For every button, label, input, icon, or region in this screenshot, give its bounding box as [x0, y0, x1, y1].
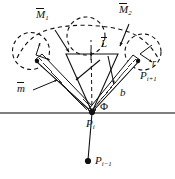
label-mass-left-text: m: [17, 83, 25, 94]
label-node-right-text: P: [140, 69, 147, 81]
figure-canvas: M1 M2 L m r b Φ Pi+1 Pi Pi−1: [0, 0, 175, 179]
label-radius-right-text: r: [152, 57, 156, 68]
hatched-band-left: [35, 54, 96, 112]
label-length-center: L: [101, 38, 107, 49]
dashed-connecting-arc: [17, 25, 158, 58]
label-moment-right-text: M: [119, 4, 128, 15]
label-angle-phi-text: Φ: [100, 100, 108, 112]
label-mass-left: m: [17, 83, 25, 94]
label-node-below-sub: i−1: [102, 160, 112, 167]
mass-leader-line: [33, 80, 57, 90]
label-node-vertex-sub: i: [93, 123, 95, 130]
label-angle-phi: Φ: [100, 101, 108, 112]
label-width-right: b: [120, 87, 126, 98]
label-moment-left: M1: [36, 9, 49, 22]
label-moment-right-sub: 2: [128, 9, 131, 16]
label-moment-right: M2: [119, 4, 132, 17]
inner-arrow-left: [76, 60, 100, 80]
lower-node-dot: [85, 158, 91, 164]
label-radius-right: r: [152, 58, 156, 68]
label-node-below: Pi−1: [95, 155, 112, 168]
label-moment-left-sub: 1: [45, 14, 48, 21]
label-node-right: Pi+1: [140, 70, 157, 83]
node-dot-left-edge: [35, 59, 39, 63]
label-node-below-text: P: [95, 154, 102, 166]
label-moment-left-text: M: [36, 9, 45, 20]
label-width-right-text: b: [120, 86, 126, 98]
dashed-circle-center: [67, 17, 105, 55]
label-node-vertex-text: P: [86, 117, 93, 129]
node-dot-right-edge: [136, 59, 140, 63]
diagram-svg: [0, 0, 175, 179]
label-node-vertex: Pi: [86, 118, 95, 131]
label-length-center-text: L: [101, 38, 107, 49]
label-node-right-sub: i+1: [147, 75, 157, 82]
moment-arrow-left: [55, 30, 69, 52]
inner-arrow-right: [108, 56, 114, 84]
right-circle-pointer: [140, 45, 152, 62]
